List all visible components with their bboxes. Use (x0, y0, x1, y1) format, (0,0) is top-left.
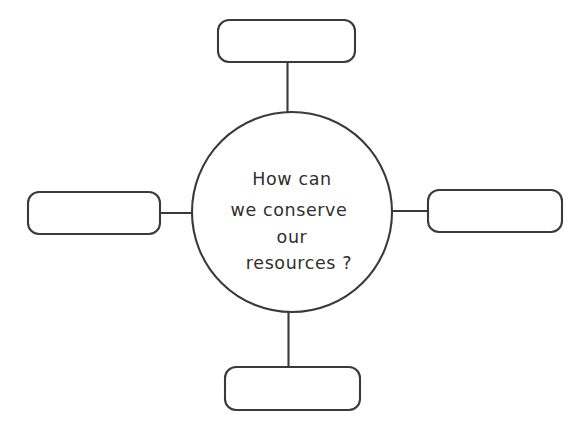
branch-box-bottom[interactable] (225, 367, 360, 410)
central-question-line-2: we conserve (231, 200, 348, 220)
branch-box-top[interactable] (218, 20, 355, 62)
branch-box-right[interactable] (428, 190, 562, 232)
central-question-line-3: our (277, 227, 308, 247)
concept-map-diagram: How can we conserve our resources ? (0, 0, 586, 433)
branch-box-left[interactable] (28, 192, 160, 234)
worksheet-canvas: How can we conserve our resources ? (0, 0, 586, 433)
central-question-line-4: resources ? (246, 253, 352, 273)
central-question-line-1: How can (252, 169, 331, 189)
